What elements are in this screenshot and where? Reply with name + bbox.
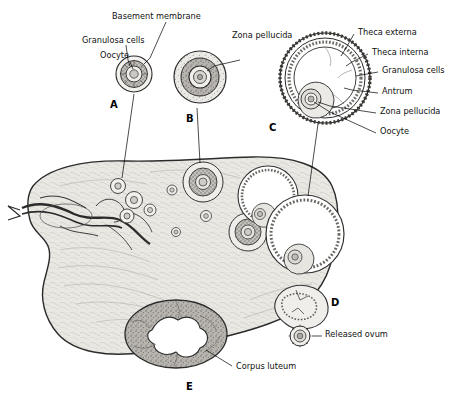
mature-follicle-d <box>266 195 344 274</box>
growing-follicle-1 <box>183 162 223 202</box>
stage-letter-b: B <box>186 113 194 124</box>
label-granulosa-cells-a: Granulosa cells <box>82 36 145 45</box>
label-zona-pellucida-b: Zona pellucida <box>232 31 292 41</box>
label-zona-pellucida-c: Zona pellucida <box>380 107 440 116</box>
stage-letter-a: A <box>110 99 118 110</box>
label-theca-externa: Theca externa <box>358 28 417 37</box>
stage-letter-d: D <box>331 297 339 308</box>
ovary-diagram-figure: Basement membrane Granulosa cells Oocyte… <box>0 0 459 404</box>
label-granulosa-cells-c: Granulosa cells <box>382 66 445 75</box>
label-theca-interna: Theca interna <box>372 48 429 57</box>
label-oocyte-c: Oocyte <box>380 127 409 136</box>
label-basement-membrane: Basement membrane <box>112 12 201 21</box>
diagram-artwork <box>0 0 459 404</box>
ruptured-follicle <box>275 285 328 329</box>
stage-letter-c: C <box>269 122 276 133</box>
corpus-luteum <box>125 300 227 368</box>
label-antrum: Antrum <box>382 87 413 96</box>
stage-b-follicle <box>174 51 226 103</box>
stage-letter-e: E <box>186 381 193 392</box>
label-corpus-luteum: Corpus luteum <box>236 362 296 371</box>
stage-c-follicle <box>280 33 370 123</box>
label-oocyte-a: Oocyte <box>100 51 129 60</box>
label-released-ovum: Released ovum <box>325 330 388 339</box>
